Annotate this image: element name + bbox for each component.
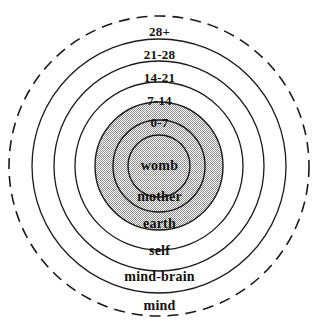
- ring-circle-womb: [128, 135, 190, 197]
- diagram-canvas: [0, 0, 319, 332]
- concentric-circles-diagram: 28+ 21-28 14-21 7-14 0-7 womb mother ear…: [0, 0, 319, 332]
